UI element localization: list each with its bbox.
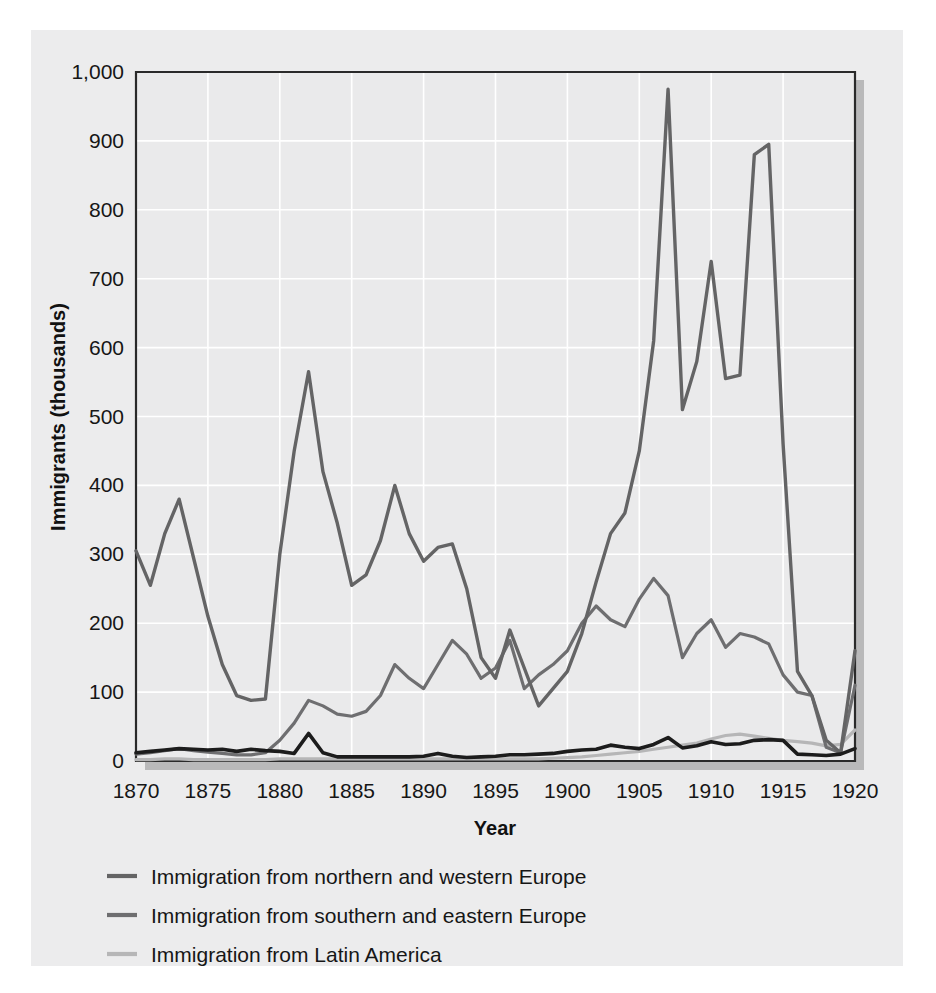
x-axis-title: Year <box>474 817 516 839</box>
y-tick-label: 500 <box>89 405 124 428</box>
y-axis-tick-labels: 01002003004005006007008009001,000 <box>71 60 124 772</box>
y-axis-title: Immigrants (thousands) <box>47 303 69 531</box>
y-tick-label: 600 <box>89 336 124 359</box>
x-tick-label: 1880 <box>256 779 303 802</box>
chart-container: 01002003004005006007008009001,000 187018… <box>31 30 903 966</box>
x-tick-label: 1890 <box>400 779 447 802</box>
plot-shadow-right <box>855 80 864 770</box>
y-tick-label: 300 <box>89 542 124 565</box>
chart-legend: Immigration from northern and western Eu… <box>107 865 586 966</box>
x-tick-label: 1915 <box>760 779 807 802</box>
x-tick-label: 1870 <box>113 779 160 802</box>
x-tick-label: 1875 <box>185 779 232 802</box>
legend-label-2: Immigration from southern and eastern Eu… <box>151 904 586 927</box>
x-tick-label: 1920 <box>832 779 879 802</box>
y-tick-label: 100 <box>89 680 124 703</box>
x-tick-label: 1885 <box>328 779 375 802</box>
y-tick-label: 700 <box>89 267 124 290</box>
x-tick-label: 1910 <box>688 779 735 802</box>
y-tick-label: 0 <box>112 749 124 772</box>
x-tick-label: 1900 <box>544 779 591 802</box>
legend-label-3: Immigration from Latin America <box>151 943 442 966</box>
y-tick-label: 900 <box>89 129 124 152</box>
figure-panel: 01002003004005006007008009001,000 187018… <box>31 30 903 966</box>
y-tick-label: 200 <box>89 611 124 634</box>
plot-shadow-bottom <box>145 761 864 770</box>
y-tick-label: 400 <box>89 473 124 496</box>
immigration-line-chart: 01002003004005006007008009001,000 187018… <box>31 30 903 966</box>
x-axis-tick-labels: 1870187518801885189018951900190519101915… <box>113 779 879 802</box>
x-tick-label: 1905 <box>616 779 663 802</box>
y-tick-label: 1,000 <box>71 60 124 83</box>
x-tick-label: 1895 <box>472 779 519 802</box>
legend-label-1: Immigration from northern and western Eu… <box>151 865 586 888</box>
y-tick-label: 800 <box>89 198 124 221</box>
